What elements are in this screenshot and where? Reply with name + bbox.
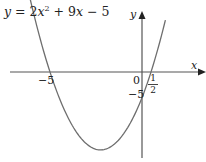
- origin-label: 0: [133, 75, 140, 86]
- eq-x2: x: [76, 4, 83, 19]
- eq-y: y: [4, 4, 11, 19]
- y-axis-arrow-icon: [139, 11, 146, 19]
- x-intercept-half-label: 1 2: [148, 74, 158, 95]
- y-axis-label: y: [130, 9, 136, 20]
- x-axis-label: x: [191, 60, 197, 71]
- x-intercept-neg5-label: −5: [38, 75, 54, 86]
- eq-term-9: + 9: [50, 4, 76, 19]
- fraction-denominator: 2: [148, 85, 158, 95]
- y-intercept-label: −5: [128, 89, 144, 100]
- eq-equals: = 2: [11, 4, 37, 19]
- eq-const: − 5: [83, 4, 109, 19]
- x-axis-arrow-icon: [198, 69, 206, 76]
- plot-svg: [0, 0, 206, 162]
- eq-x: x: [37, 4, 44, 19]
- fraction-numerator: 1: [148, 74, 158, 85]
- equation-label: y = 2x2 + 9x − 5: [4, 5, 109, 19]
- chart-area: y = 2x2 + 9x − 5 x y −5 0 −5 1 2: [0, 0, 206, 162]
